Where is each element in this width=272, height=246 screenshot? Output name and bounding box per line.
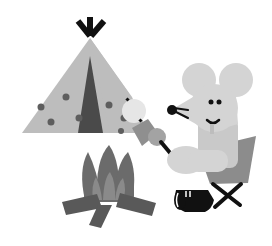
mouse bbox=[167, 63, 253, 212]
chair-legs bbox=[213, 184, 241, 207]
mouse-eye-right bbox=[217, 100, 222, 105]
mouse-leg bbox=[188, 150, 228, 172]
tent-poles-icon bbox=[78, 17, 104, 36]
illustration-canvas bbox=[0, 0, 272, 246]
stick bbox=[161, 142, 171, 154]
mouse-eye-left bbox=[209, 100, 214, 105]
marshmallow-light bbox=[122, 99, 146, 123]
camping-mouse-illustration bbox=[0, 0, 272, 246]
mouse-shoe bbox=[174, 190, 214, 212]
mouse-nose-icon bbox=[167, 105, 177, 115]
campfire bbox=[62, 145, 156, 228]
